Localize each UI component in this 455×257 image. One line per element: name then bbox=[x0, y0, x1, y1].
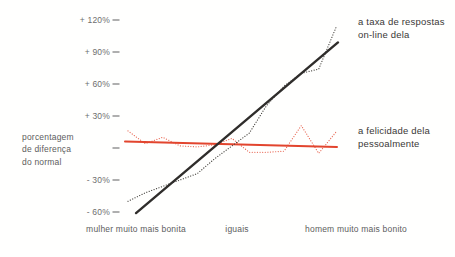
x-label-equal: iguais bbox=[225, 224, 248, 234]
annotation-in-person-happiness: a felicidade dela pessoalmente bbox=[358, 125, 430, 151]
her-online-reply-rate-data-line bbox=[128, 28, 336, 202]
y-tick-label: - 60% bbox=[87, 207, 110, 217]
x-label-man-much-prettier: homem muito mais bonito bbox=[305, 224, 407, 234]
annotation-line: pessoalmente bbox=[358, 138, 430, 151]
annotation-online-reply-rate: a taxa de respostas on-line dela bbox=[358, 16, 445, 42]
y-axis-title-line: do normal bbox=[22, 156, 74, 168]
x-label-woman-much-prettier: mulher muito mais bonita bbox=[86, 224, 186, 234]
her-in-person-happiness-trend-line bbox=[125, 142, 337, 147]
her-online-reply-rate-trend-line bbox=[136, 42, 338, 213]
y-tick-label: - 30% bbox=[87, 175, 110, 185]
her-in-person-happiness-data-line bbox=[128, 126, 336, 154]
y-tick-label: + 120% bbox=[80, 15, 111, 25]
y-tick-label: + 60% bbox=[85, 79, 111, 89]
annotation-line: a taxa de respostas bbox=[358, 16, 445, 29]
y-tick-label: + 90% bbox=[85, 47, 111, 57]
y-axis-title-line: de diferença bbox=[22, 143, 74, 155]
annotation-line: on-line dela bbox=[358, 29, 445, 42]
y-tick-label: + 30% bbox=[85, 111, 111, 121]
annotation-line: a felicidade dela bbox=[358, 125, 430, 138]
y-axis-title: porcentagem de diferença do normal bbox=[22, 131, 74, 168]
attractiveness-gap-chart: + 120%+ 90%+ 60%+ 30%- 30%- 60% porcenta… bbox=[0, 0, 455, 257]
y-axis-title-line: porcentagem bbox=[22, 131, 74, 143]
